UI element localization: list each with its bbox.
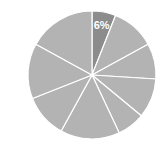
pie-slices xyxy=(28,11,156,139)
pie-labels: 6% xyxy=(94,19,110,31)
pie-chart: 6% xyxy=(0,0,165,150)
slice-percent-label: 6% xyxy=(94,19,110,31)
